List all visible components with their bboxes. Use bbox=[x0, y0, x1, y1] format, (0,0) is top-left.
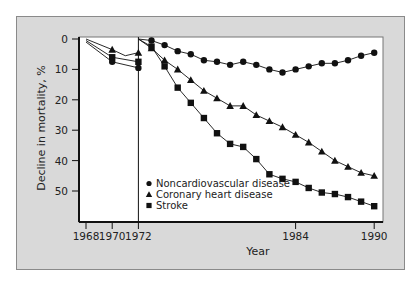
square-marker bbox=[306, 185, 312, 191]
circle-marker bbox=[148, 37, 154, 43]
square-marker bbox=[319, 189, 325, 195]
y-tick-label: 30 bbox=[55, 124, 68, 136]
y-tick-label: 0 bbox=[61, 33, 68, 45]
y-tick-label: 20 bbox=[55, 94, 68, 106]
square-marker bbox=[161, 63, 167, 69]
circle-marker bbox=[306, 63, 312, 69]
legend-item-label: Noncardiovascular disease bbox=[156, 178, 290, 189]
square-marker bbox=[253, 156, 259, 162]
circle-marker bbox=[279, 69, 285, 75]
legend-item-label: Coronary heart disease bbox=[156, 189, 273, 200]
circle-marker bbox=[161, 42, 167, 48]
square-marker bbox=[201, 115, 207, 121]
square-marker bbox=[332, 191, 338, 197]
square-marker bbox=[188, 100, 194, 106]
square-marker bbox=[345, 194, 351, 200]
y-tick-label: 10 bbox=[55, 63, 68, 75]
circle-marker bbox=[135, 65, 141, 71]
square-marker bbox=[240, 144, 246, 150]
x-tick-label: 1968 bbox=[73, 230, 100, 242]
circle-marker bbox=[292, 66, 298, 72]
x-tick-label: 1984 bbox=[282, 230, 309, 242]
square-marker bbox=[371, 203, 377, 209]
circle-marker bbox=[146, 181, 151, 186]
circle-marker bbox=[266, 66, 272, 72]
circle-marker bbox=[214, 59, 220, 65]
circle-marker bbox=[358, 53, 364, 59]
square-marker bbox=[146, 203, 151, 208]
circle-marker bbox=[253, 62, 259, 68]
circle-marker bbox=[319, 60, 325, 66]
circle-marker bbox=[345, 57, 351, 63]
circle-marker bbox=[188, 51, 194, 57]
square-marker bbox=[358, 198, 364, 204]
square-marker bbox=[266, 171, 272, 177]
y-tick-label: 50 bbox=[55, 185, 68, 197]
x-tick-label: 1990 bbox=[361, 230, 388, 242]
square-marker bbox=[148, 43, 154, 49]
x-tick-label: 1970 bbox=[99, 230, 126, 242]
circle-marker bbox=[371, 49, 377, 55]
circle-marker bbox=[227, 62, 233, 68]
circle-marker bbox=[332, 60, 338, 66]
y-tick-label: 40 bbox=[55, 155, 68, 167]
legend-item-label: Stroke bbox=[156, 200, 188, 211]
x-tick-label: 1972 bbox=[125, 230, 152, 242]
square-marker bbox=[109, 54, 115, 60]
x-axis-title: Year bbox=[245, 245, 270, 258]
square-marker bbox=[292, 179, 298, 185]
circle-marker bbox=[240, 59, 246, 65]
square-marker bbox=[227, 141, 233, 147]
square-marker bbox=[135, 59, 141, 65]
square-marker bbox=[214, 130, 220, 136]
square-marker bbox=[175, 84, 181, 90]
y-axis-title: Decline in mortality, % bbox=[35, 65, 48, 191]
mortality-chart: 0102030405019681970197219841990 Noncardi… bbox=[0, 0, 419, 284]
circle-marker bbox=[175, 48, 181, 54]
circle-marker bbox=[201, 57, 207, 63]
